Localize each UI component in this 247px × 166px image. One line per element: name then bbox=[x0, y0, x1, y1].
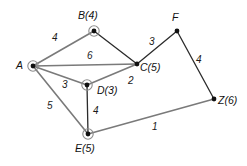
edge-e-z bbox=[88, 99, 214, 134]
node-label-d: D(3) bbox=[97, 85, 117, 96]
node-e[interactable] bbox=[86, 132, 91, 137]
node-label-e: E(5) bbox=[75, 143, 95, 154]
edge-b-c bbox=[94, 31, 137, 64]
node-label-b: B(4) bbox=[78, 10, 98, 21]
edge-weight-d-e: 4 bbox=[93, 106, 99, 116]
edge-layer bbox=[33, 31, 214, 134]
node-f[interactable] bbox=[175, 29, 180, 34]
edge-weight-d-c: 2 bbox=[128, 76, 134, 86]
graph-svg bbox=[0, 0, 247, 166]
edge-weight-a-e: 5 bbox=[47, 101, 53, 111]
node-b[interactable] bbox=[92, 29, 97, 34]
edge-weight-a-b: 4 bbox=[52, 33, 58, 43]
edge-c-f bbox=[137, 31, 177, 64]
edge-a-b bbox=[33, 31, 94, 66]
node-label-a: A bbox=[16, 60, 23, 71]
edge-weight-a-d: 3 bbox=[62, 80, 68, 90]
edge-d-e bbox=[87, 85, 88, 134]
node-label-z: Z(6) bbox=[218, 95, 237, 106]
edge-weight-e-z: 1 bbox=[152, 122, 158, 132]
node-label-c: C(5) bbox=[140, 62, 160, 73]
node-d[interactable] bbox=[85, 83, 90, 88]
node-label-f: F bbox=[172, 12, 178, 23]
edge-weight-a-c: 6 bbox=[87, 51, 93, 61]
edge-a-c bbox=[33, 64, 137, 66]
node-c[interactable] bbox=[135, 62, 140, 67]
node-z[interactable] bbox=[212, 97, 217, 102]
edge-weight-c-f: 3 bbox=[149, 37, 155, 47]
edge-f-z bbox=[177, 31, 214, 99]
graph-diagram: 463524341AB(4)C(5)D(3)E(5)FZ(6) bbox=[0, 0, 247, 166]
node-a[interactable] bbox=[31, 64, 36, 69]
edge-weight-f-z: 4 bbox=[196, 55, 202, 65]
